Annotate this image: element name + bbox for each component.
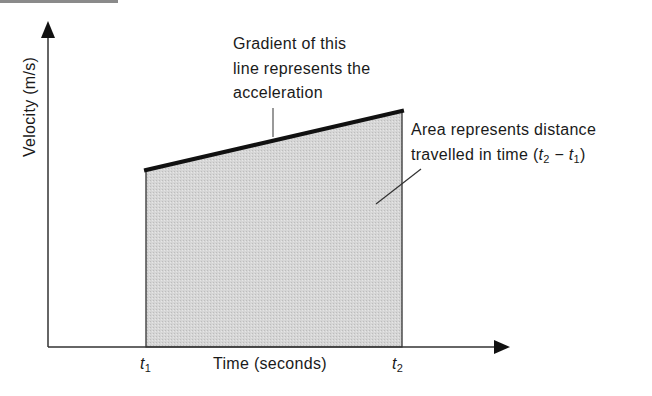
x-axis-arrow-icon	[494, 340, 510, 354]
area-annotation-suffix: )	[580, 146, 586, 163]
x-tick-t2: t2	[392, 352, 403, 381]
x-tick-t2-subscript: 2	[397, 362, 403, 374]
x-tick-t1-subscript: 1	[145, 362, 151, 374]
gradient-annotation: Gradient of this line represents the acc…	[233, 32, 370, 106]
y-axis-arrow-icon	[41, 21, 55, 38]
area-annotation-line-1: Area represents distance	[411, 118, 596, 143]
gradient-annotation-line-3: acceleration	[233, 81, 370, 106]
distance-area	[146, 111, 402, 347]
x-tick-t1: t1	[140, 352, 151, 381]
area-annotation-prefix: travelled in time (	[411, 146, 539, 163]
gradient-annotation-line-1: Gradient of this	[233, 32, 370, 57]
area-annotation-line-2: travelled in time (t2 − t1)	[411, 143, 596, 172]
y-axis-label: Velocity (m/s)	[18, 57, 43, 157]
minus-sign: −	[550, 146, 569, 163]
x-axis-label: Time (seconds)	[213, 352, 327, 377]
gradient-annotation-line-2: line represents the	[233, 57, 370, 82]
area-annotation: Area represents distance travelled in ti…	[411, 118, 596, 171]
